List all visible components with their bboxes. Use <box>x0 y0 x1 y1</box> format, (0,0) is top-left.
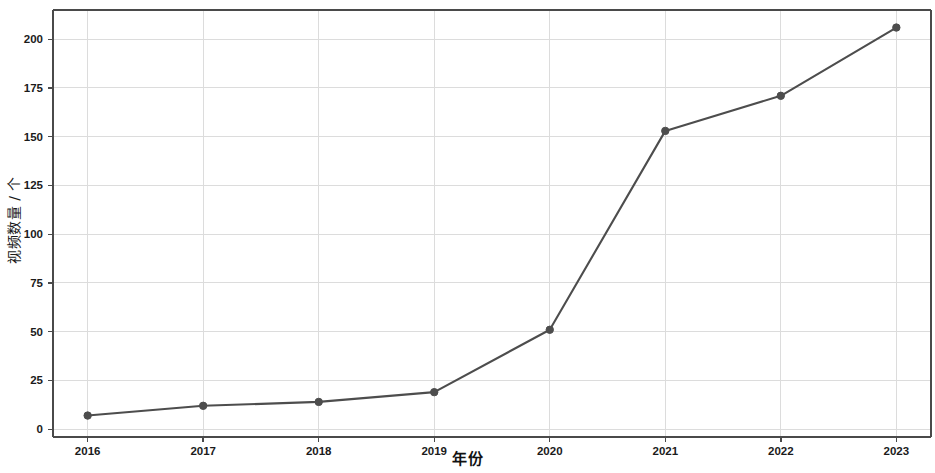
data-point-marker <box>431 388 438 395</box>
x-tick-label: 2017 <box>190 445 216 457</box>
y-tick-label: 150 <box>24 131 43 143</box>
axis-frame <box>53 10 931 437</box>
data-point-marker <box>199 402 206 409</box>
series-line-video-count <box>88 28 897 416</box>
x-tick-label: 2020 <box>537 445 563 457</box>
y-tick-label: 100 <box>24 228 43 240</box>
x-tick-label: 2018 <box>306 445 332 457</box>
data-series-line <box>88 28 897 416</box>
data-point-marker <box>777 92 784 99</box>
chart-plot-area: 0255075100125150175200201620172018201920… <box>0 0 935 473</box>
y-tick-label: 50 <box>30 326 43 338</box>
x-tick-label: 2023 <box>884 445 910 457</box>
data-point-marker <box>662 127 669 134</box>
line-chart-figure: 0255075100125150175200201620172018201920… <box>0 0 935 473</box>
x-tick-label: 2016 <box>75 445 101 457</box>
data-point-marker <box>84 412 91 419</box>
x-tick-label: 2021 <box>652 445 678 457</box>
data-point-marker <box>546 326 553 333</box>
y-tick-label: 200 <box>24 33 43 45</box>
gridlines <box>53 10 931 437</box>
x-tick-label: 2022 <box>768 445 794 457</box>
y-tick-label: 0 <box>37 423 43 435</box>
y-tick-label: 75 <box>30 277 43 289</box>
y-tick-label: 175 <box>24 82 44 94</box>
x-tick-label: 2019 <box>421 445 447 457</box>
data-point-marker <box>315 398 322 405</box>
y-tick-label: 25 <box>30 374 43 386</box>
y-tick-label: 125 <box>24 179 44 191</box>
data-point-marker <box>893 24 900 31</box>
